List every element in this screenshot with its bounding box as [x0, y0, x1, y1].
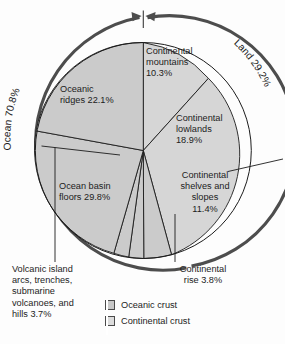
slice-label-ocean-basin-floors: Ocean basin floors 29.8% [59, 181, 151, 203]
slice-label-continental-shelves-and-slopes: Continental shelves and slopes 11.4% [173, 170, 237, 215]
legend-swatch-continental-crust [105, 316, 115, 326]
chart-legend: Oceanic crust Continental crust [105, 298, 190, 330]
slice-label-oceanic-ridges: Oceanic ridges 22.1% [60, 84, 140, 106]
ocean-arc-arrowhead [132, 12, 142, 21]
slice-label-continental-lowlands: Continental lowlands 18.9% [176, 113, 246, 147]
callout-label-volcanic-island-arcs: Volcanic island arcs, trenches, submarin… [12, 264, 100, 320]
legend-item-oceanic-crust[interactable]: Oceanic crust [105, 298, 190, 312]
legend-item-continental-crust[interactable]: Continental crust [105, 314, 190, 328]
legend-label-oceanic-crust: Oceanic crust [121, 300, 177, 310]
slice-label-continental-mountains: Continental mountains 10.3% [146, 46, 214, 80]
ocean-group-label-text: Ocean 70.8% [1, 86, 21, 150]
callout-label-continental-rise: Continental rise 3.8% [166, 264, 240, 286]
pie-slices [35, 42, 252, 258]
legend-swatch-oceanic-crust [105, 300, 115, 310]
ocean-group-label: Ocean 70.8% [1, 86, 21, 150]
land-arc-arrowhead [145, 12, 155, 21]
legend-label-continental-crust: Continental crust [121, 316, 190, 326]
pie-chart-figure: Ocean 70.8% Land 29.2% Oceanic ridges 22… [0, 0, 285, 344]
